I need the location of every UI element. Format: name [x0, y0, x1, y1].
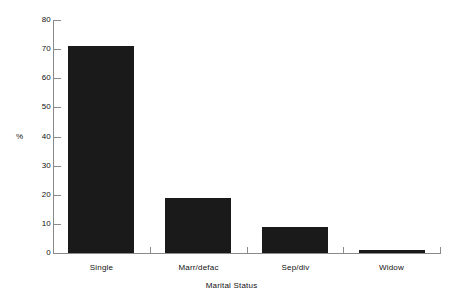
y-tick-mark: [54, 195, 61, 196]
y-tick-label: 10: [29, 220, 51, 228]
x-tick-label: Widow: [343, 263, 440, 272]
x-tick-mark: [440, 247, 441, 254]
x-axis-title: Marital Status: [0, 281, 463, 290]
bar: [262, 227, 328, 253]
y-axis-title: %: [16, 133, 28, 141]
y-tick-mark: [54, 78, 61, 79]
bar: [68, 46, 134, 253]
x-tick-label: Marr/defac: [150, 263, 247, 272]
y-tick-mark: [54, 166, 61, 167]
y-tick-mark: [54, 107, 61, 108]
y-tick-label: 20: [29, 191, 51, 199]
x-tick-mark: [150, 247, 151, 254]
y-tick-mark: [54, 137, 61, 138]
bar: [165, 198, 231, 253]
y-tick-label: 30: [29, 162, 51, 170]
x-tick-label: Single: [53, 263, 150, 272]
y-tick-mark: [54, 49, 61, 50]
y-tick-label: 80: [29, 16, 51, 24]
y-tick-mark: [54, 224, 61, 225]
x-tick-mark: [53, 247, 54, 254]
y-tick-label: 40: [29, 133, 51, 141]
bar-chart: 01020304050607080 % SingleMarr/defacSep/…: [0, 0, 463, 301]
y-tick-label: 60: [29, 74, 51, 82]
y-tick-label: 50: [29, 103, 51, 111]
x-tick-label: Sep/div: [247, 263, 344, 272]
y-tick-label: 0: [29, 249, 51, 257]
y-tick-mark: [54, 20, 61, 21]
y-tick-label: 70: [29, 45, 51, 53]
x-tick-mark: [247, 247, 248, 254]
x-tick-mark: [343, 247, 344, 254]
